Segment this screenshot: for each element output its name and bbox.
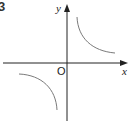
y-axis-arrow-icon — [64, 4, 70, 12]
y-axis-label: y — [56, 3, 61, 14]
hyperbola-branch-quadrant-1 — [77, 17, 115, 53]
x-axis-label: x — [122, 66, 127, 77]
hyperbola-branch-quadrant-3 — [19, 74, 57, 110]
coordinate-plane — [0, 0, 131, 122]
origin-label: O — [57, 66, 66, 77]
